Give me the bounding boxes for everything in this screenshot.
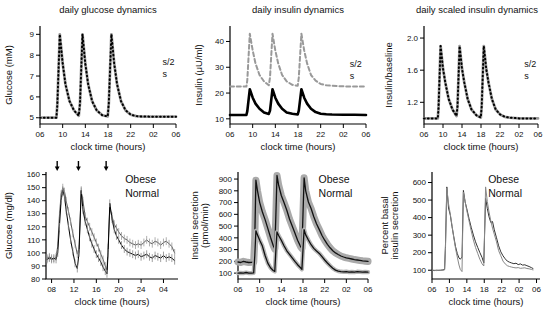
svg-text:90: 90	[31, 262, 40, 271]
panel-title: daily insulin dynamics	[190, 0, 380, 18]
svg-text:16: 16	[92, 285, 101, 294]
panel-insulin-secretion: 0610141822020610020030040050060070080090…	[190, 158, 380, 319]
svg-text:2.0: 2.0	[407, 34, 419, 43]
svg-text:06: 06	[234, 285, 243, 294]
panel-percent-basal-insulin-secretion: 06101418220206100200300400500600clock ti…	[380, 158, 548, 319]
svg-text:6: 6	[30, 93, 35, 102]
svg-text:06: 06	[532, 285, 541, 294]
svg-text:20: 20	[215, 89, 224, 98]
svg-text:30: 30	[215, 63, 224, 72]
svg-text:600: 600	[219, 210, 233, 219]
svg-text:06: 06	[428, 285, 437, 294]
svg-text:10: 10	[439, 130, 448, 139]
six-panel-figure: daily glucose dynamics 06101418220206567…	[0, 0, 548, 319]
svg-text:18: 18	[294, 130, 303, 139]
svg-text:clock time (hours): clock time (hours)	[444, 141, 519, 152]
glucose-mgdl-plot: 0812162024048090100110120130140150160clo…	[0, 158, 190, 319]
svg-text:06: 06	[364, 285, 373, 294]
svg-text:1.6: 1.6	[407, 66, 419, 75]
svg-text:300: 300	[219, 245, 233, 254]
svg-text:10: 10	[58, 130, 67, 139]
svg-text:10: 10	[255, 285, 264, 294]
insulin-secretion-plot: 0610141822020610020030040050060070080090…	[190, 158, 380, 319]
svg-text:Obese: Obese	[488, 173, 519, 185]
svg-text:02: 02	[515, 285, 524, 294]
svg-text:130: 130	[27, 209, 41, 218]
svg-text:08: 08	[47, 285, 56, 294]
svg-text:300: 300	[413, 231, 427, 240]
svg-text:s: s	[350, 71, 355, 81]
svg-text:s/2: s/2	[524, 59, 536, 69]
panel-daily-insulin-dynamics: daily insulin dynamics 06101418220206102…	[190, 0, 380, 158]
svg-text:06: 06	[362, 130, 371, 139]
svg-text:10: 10	[248, 130, 257, 139]
svg-text:120: 120	[27, 223, 41, 232]
svg-text:s: s	[162, 69, 167, 79]
svg-text:Obese: Obese	[125, 173, 156, 185]
percent-basal-plot: 06101418220206100200300400500600clock ti…	[380, 158, 548, 319]
svg-text:100: 100	[27, 249, 41, 258]
svg-text:Normal: Normal	[319, 187, 353, 199]
svg-text:140: 140	[27, 196, 41, 205]
svg-text:160: 160	[27, 170, 41, 179]
svg-text:04: 04	[159, 285, 168, 294]
svg-text:Insulin (μU/ml): Insulin (μU/ml)	[193, 44, 204, 105]
svg-text:22: 22	[496, 130, 505, 139]
svg-text:18: 18	[480, 285, 489, 294]
insulin-uUml-plot: 0610141822020610203040clock time (hours)…	[190, 18, 380, 158]
svg-text:100: 100	[413, 266, 427, 275]
svg-text:110: 110	[27, 236, 40, 245]
svg-text:18: 18	[299, 285, 308, 294]
svg-text:9: 9	[30, 30, 35, 39]
svg-text:24: 24	[137, 285, 146, 294]
svg-text:5: 5	[30, 113, 35, 122]
svg-text:700: 700	[219, 198, 233, 207]
svg-text:clock time (hours): clock time (hours)	[449, 296, 524, 307]
svg-text:Glucose (mg/dl): Glucose (mg/dl)	[3, 192, 14, 259]
svg-text:40: 40	[215, 37, 224, 46]
svg-text:600: 600	[413, 178, 427, 187]
svg-text:Normal: Normal	[125, 187, 159, 199]
svg-text:06: 06	[420, 130, 429, 139]
svg-text:Insulin/baseline: Insulin/baseline	[383, 42, 394, 108]
svg-text:500: 500	[219, 222, 233, 231]
insulin-baseline-plot: 061014182202061.21.62.0clock time (hours…	[380, 18, 548, 158]
svg-text:150: 150	[27, 183, 41, 192]
svg-text:Glucose (mM): Glucose (mM)	[3, 45, 14, 105]
svg-text:Obese: Obese	[319, 173, 350, 185]
svg-text:12: 12	[70, 285, 79, 294]
svg-text:(pmol/min): (pmol/min)	[199, 203, 210, 248]
panel-daily-glucose-dynamics: daily glucose dynamics 06101418220206567…	[0, 0, 190, 158]
svg-text:06: 06	[36, 130, 45, 139]
svg-text:1.2: 1.2	[407, 98, 419, 107]
svg-text:14: 14	[271, 130, 280, 139]
svg-text:14: 14	[277, 285, 286, 294]
svg-text:22: 22	[316, 130, 325, 139]
svg-text:200: 200	[219, 257, 233, 266]
svg-text:400: 400	[413, 213, 427, 222]
svg-text:Normal: Normal	[488, 187, 522, 199]
panel-glucose-mgdl: 0812162024048090100110120130140150160clo…	[0, 158, 190, 319]
svg-text:06: 06	[534, 130, 543, 139]
svg-text:clock time (hours): clock time (hours)	[266, 296, 341, 307]
panel-title: daily scaled insulin dynamics	[380, 0, 548, 18]
svg-text:18: 18	[477, 130, 486, 139]
svg-text:22: 22	[126, 130, 135, 139]
svg-text:22: 22	[497, 285, 506, 294]
panel-daily-scaled-insulin-dynamics: daily scaled insulin dynamics 0610141822…	[380, 0, 548, 158]
svg-text:14: 14	[458, 130, 467, 139]
svg-text:18: 18	[104, 130, 113, 139]
svg-text:80: 80	[31, 275, 40, 284]
svg-text:s: s	[524, 71, 529, 81]
svg-text:02: 02	[339, 130, 348, 139]
svg-text:400: 400	[219, 234, 233, 243]
svg-text:06: 06	[226, 130, 235, 139]
svg-text:10: 10	[445, 285, 454, 294]
svg-text:22: 22	[320, 285, 329, 294]
svg-text:8: 8	[30, 51, 35, 60]
svg-text:insulin secretion: insulin secretion	[389, 191, 400, 259]
panel-title: daily glucose dynamics	[0, 0, 190, 18]
svg-text:02: 02	[342, 285, 351, 294]
svg-text:200: 200	[413, 248, 427, 257]
svg-text:10: 10	[215, 115, 224, 124]
